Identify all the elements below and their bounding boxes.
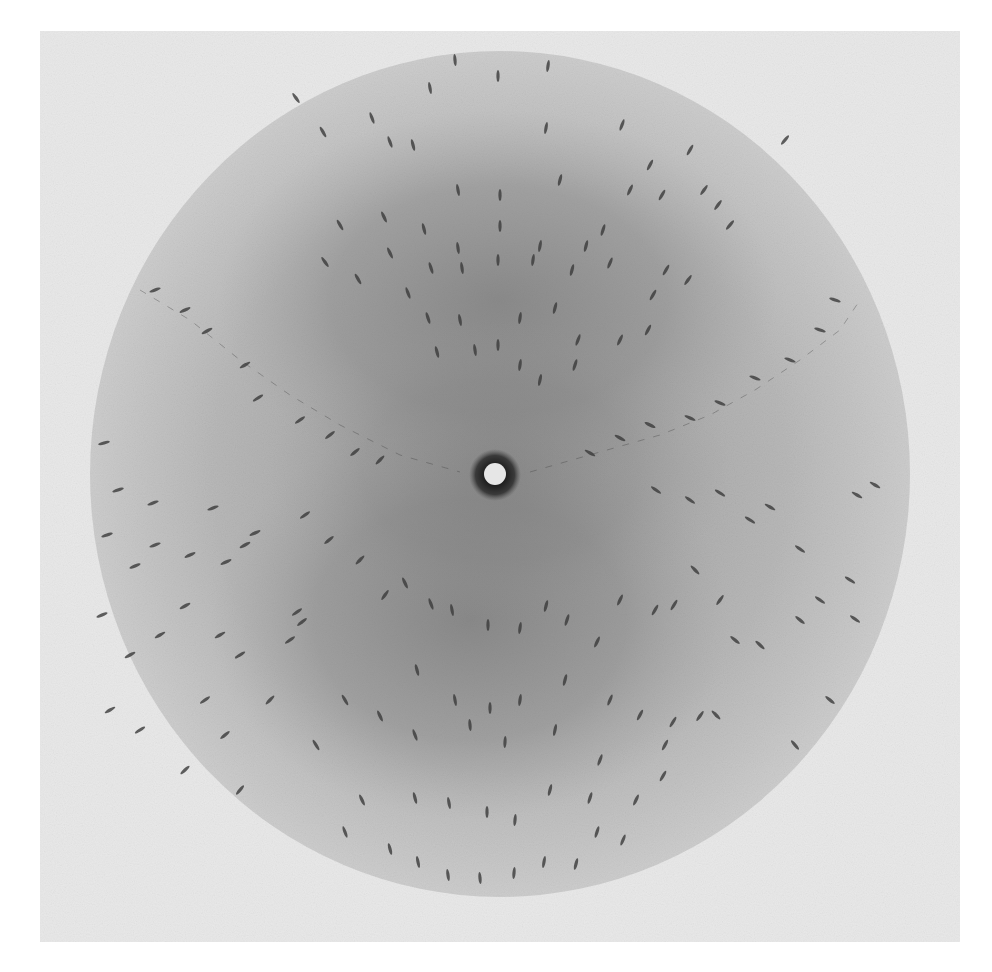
beam-stop xyxy=(469,449,521,501)
diffraction-spot xyxy=(496,254,499,266)
diffraction-spot xyxy=(486,619,489,631)
diffraction-spot xyxy=(496,339,499,351)
diffraction-spot xyxy=(485,806,488,818)
diffraction-spot xyxy=(498,189,501,201)
diffraction-spot xyxy=(496,70,499,82)
diffraction-spot xyxy=(498,220,501,232)
diffraction-spot xyxy=(488,702,491,714)
diffraction-photograph xyxy=(0,0,992,972)
beamstop-center xyxy=(484,463,506,485)
